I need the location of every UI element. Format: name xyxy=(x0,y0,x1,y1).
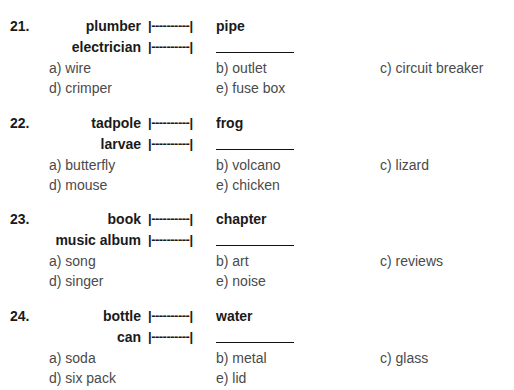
connector: |----------| xyxy=(148,328,193,346)
analogy-query-row: larvae |----------| xyxy=(0,135,514,153)
analogy-pair-row: book |----------| chapter xyxy=(0,210,514,228)
option-b[interactable]: b) outlet xyxy=(216,59,267,77)
option-c[interactable]: c) reviews xyxy=(380,252,443,270)
option-a[interactable]: a) soda xyxy=(49,349,96,367)
question-23: 23. book |----------| chapter music albu… xyxy=(0,210,514,305)
query-left-word: larvae xyxy=(101,135,141,153)
analogy-pair-row: tadpole |----------| frog xyxy=(0,114,514,132)
pair-right-word: pipe xyxy=(216,17,245,35)
option-d[interactable]: d) six pack xyxy=(49,369,116,387)
answer-blank[interactable] xyxy=(216,245,294,246)
connector: |----------| xyxy=(148,38,193,56)
connector: |----------| xyxy=(148,135,193,153)
connector: |----------| xyxy=(148,307,193,325)
analogy-query-row: music album |----------| xyxy=(0,231,514,249)
connector: |----------| xyxy=(148,210,193,228)
option-b[interactable]: b) art xyxy=(216,252,249,270)
connector: |----------| xyxy=(148,17,193,35)
question-21: 21. plumber |----------| pipe electricia… xyxy=(0,17,514,112)
answer-blank[interactable] xyxy=(216,342,294,343)
analogy-pair-row: bottle |----------| water xyxy=(0,307,514,325)
pair-left-word: bottle xyxy=(103,307,141,325)
option-c[interactable]: c) glass xyxy=(380,349,428,367)
option-a[interactable]: a) wire xyxy=(49,59,91,77)
answer-blank[interactable] xyxy=(216,52,294,53)
option-b[interactable]: b) volcano xyxy=(216,156,281,174)
query-left-word: electrician xyxy=(72,38,141,56)
pair-left-word: book xyxy=(108,210,141,228)
option-d[interactable]: d) singer xyxy=(49,272,103,290)
analogy-query-row: can |----------| xyxy=(0,328,514,346)
option-d[interactable]: d) mouse xyxy=(49,176,107,194)
option-c[interactable]: c) lizard xyxy=(380,156,429,174)
option-e[interactable]: e) lid xyxy=(216,369,246,387)
pair-right-word: frog xyxy=(216,114,243,132)
option-b[interactable]: b) metal xyxy=(216,349,267,367)
question-24: 24. bottle |----------| water can |-----… xyxy=(0,307,514,390)
analogy-pair-row: plumber |----------| pipe xyxy=(0,17,514,35)
option-e[interactable]: e) fuse box xyxy=(216,79,285,97)
option-a[interactable]: a) butterfly xyxy=(49,156,115,174)
option-c[interactable]: c) circuit breaker xyxy=(380,59,483,77)
pair-right-word: chapter xyxy=(216,210,267,228)
pair-left-word: tadpole xyxy=(91,114,141,132)
option-a[interactable]: a) song xyxy=(49,252,96,270)
option-e[interactable]: e) chicken xyxy=(216,176,280,194)
answer-blank[interactable] xyxy=(216,149,294,150)
analogy-query-row: electrician |----------| xyxy=(0,38,514,56)
connector: |----------| xyxy=(148,114,193,132)
query-left-word: music album xyxy=(55,231,141,249)
query-left-word: can xyxy=(117,328,141,346)
pair-left-word: plumber xyxy=(86,17,141,35)
option-d[interactable]: d) crimper xyxy=(49,79,112,97)
question-22: 22. tadpole |----------| frog larvae |--… xyxy=(0,114,514,209)
pair-right-word: water xyxy=(216,307,253,325)
option-e[interactable]: e) noise xyxy=(216,272,266,290)
connector: |----------| xyxy=(148,231,193,249)
